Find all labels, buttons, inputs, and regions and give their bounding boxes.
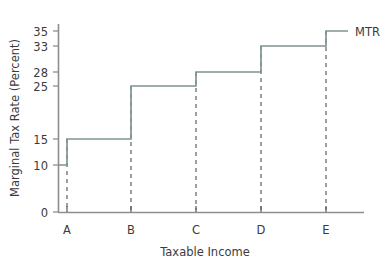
- x-tick-label-c: C: [192, 223, 200, 237]
- y-tick-label-15: 15: [33, 133, 48, 147]
- step-chart: 35 33 28 25 15 10 0 MTR A B C D: [0, 0, 385, 266]
- y-tick-label-35: 35: [33, 25, 48, 39]
- chart-container: 35 33 28 25 15 10 0 MTR A B C D: [0, 0, 385, 266]
- y-tick-label-10: 10: [33, 159, 48, 173]
- y-axis-title: Marginal Tax Rate (Percent): [8, 39, 22, 197]
- y-tick-label-33: 33: [33, 40, 48, 54]
- x-tick-label-a: A: [63, 223, 71, 237]
- y-tick-label-25: 25: [33, 80, 48, 94]
- x-axis-title: Taxable Income: [159, 245, 250, 259]
- x-tick-label-b: B: [127, 223, 135, 237]
- x-tick-label-d: D: [257, 223, 266, 237]
- y-tick-label-28: 28: [33, 66, 48, 80]
- x-tick-label-e: E: [322, 223, 329, 237]
- y-tick-label-0: 0: [41, 206, 48, 220]
- mtr-series-label: MTR: [355, 25, 380, 39]
